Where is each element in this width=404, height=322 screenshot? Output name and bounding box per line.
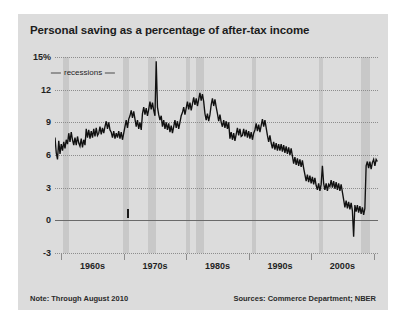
y-axis-tick-label: -3: [43, 248, 51, 258]
chart-panel: Personal saving as a percentage of after…: [18, 14, 388, 310]
x-axis-tick-label: 1970s: [142, 261, 167, 271]
sources-text: Sources: Commerce Department; NBER: [233, 294, 376, 303]
x-axis-tick: [61, 254, 62, 260]
y-axis: 15%129630-3: [18, 57, 51, 253]
x-axis-tick: [249, 254, 250, 260]
page-title: Personal saving as a percentage of after…: [30, 24, 309, 36]
x-axis-tick: [186, 254, 187, 260]
y-axis-tick-label: 3: [46, 183, 51, 193]
y-axis-tick-label: 6: [46, 150, 51, 160]
note-text: Note: Through August 2010: [30, 294, 128, 303]
x-axis-tick-label: 1990s: [267, 261, 292, 271]
plot-area: 1960s1970s1980s1990s2000srecessions: [55, 57, 378, 253]
x-axis-tick: [311, 254, 312, 260]
y-axis-tick-label: 9: [46, 117, 51, 127]
x-axis-tick: [374, 254, 375, 260]
chart-figure: Personal saving as a percentage of after…: [0, 0, 404, 322]
x-axis-tick: [124, 254, 125, 260]
x-axis-tick-label: 1960s: [80, 261, 105, 271]
y-axis-tick-label: 12: [41, 85, 51, 95]
x-axis-tick-label: 2000s: [330, 261, 355, 271]
x-axis-tick-label: 1980s: [205, 261, 230, 271]
y-gridline: [55, 253, 378, 254]
y-axis-tick-label: 15%: [33, 52, 51, 62]
saving-rate-line: [55, 57, 378, 253]
y-axis-tick-label: 0: [46, 215, 51, 225]
